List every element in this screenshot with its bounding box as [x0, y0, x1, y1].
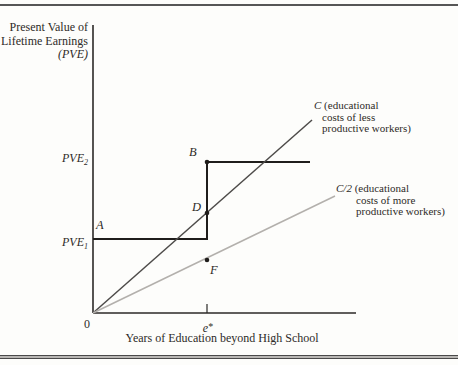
- curve-label-c-half-line3: productive workers): [336, 206, 445, 218]
- y-axis-title-line2: Lifetime Earnings: [1, 35, 88, 49]
- curve-label-c-half: C/2 (educational costs of more productiv…: [336, 183, 445, 218]
- point-F: [205, 258, 210, 263]
- point-label-a: A: [96, 218, 104, 233]
- curve-label-c-line3: productive workers): [314, 123, 411, 135]
- y-tick-pve2: PVE2: [62, 152, 88, 165]
- line-cost-C-half: [93, 196, 335, 313]
- y-axis-title-line3: (PVE): [1, 48, 88, 62]
- line-cost-C: [93, 120, 312, 313]
- point-label-d: D: [192, 200, 201, 215]
- y-tick-pve1: PVE1: [62, 236, 88, 249]
- curve-label-c: C (educational costs of less productive …: [314, 100, 411, 135]
- point-label-f: F: [210, 263, 218, 278]
- curve-label-c-line1: C (educational: [314, 99, 378, 111]
- y-axis-title: Present Value of Lifetime Earnings (PVE): [1, 21, 88, 62]
- figure: Present Value of Lifetime Earnings (PVE)…: [0, 0, 458, 365]
- curve-label-c-half-line1: C/2 (educational: [336, 182, 409, 194]
- point-D: [205, 211, 210, 216]
- point-label-b: B: [189, 145, 197, 160]
- y-axis-title-line1: Present Value of: [1, 21, 88, 35]
- x-axis-title: Years of Education beyond High School: [90, 331, 354, 346]
- origin-label: 0: [84, 317, 90, 332]
- point-B: [205, 160, 210, 165]
